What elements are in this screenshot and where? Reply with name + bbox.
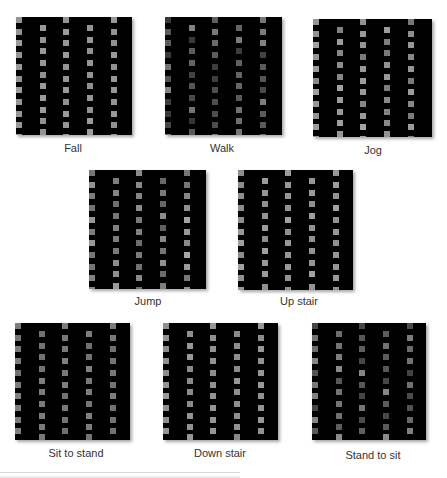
heatmap-cell xyxy=(337,85,343,91)
panel-label-up-stair: Up stair xyxy=(234,295,364,307)
heatmap-cell xyxy=(184,182,190,188)
heatmap-cell xyxy=(262,260,268,266)
heatmap-cell xyxy=(309,178,315,184)
heatmap-cell xyxy=(408,78,414,84)
heatmap-cell xyxy=(136,229,142,235)
heatmap-cell xyxy=(62,428,68,434)
heatmap-cell xyxy=(111,76,117,82)
heatmap-cell xyxy=(16,99,22,105)
heatmap-cell xyxy=(87,118,93,124)
heatmap-cell xyxy=(165,64,171,70)
heatmap-cell xyxy=(189,25,195,31)
heatmap-cell xyxy=(187,424,193,430)
heatmap-cell xyxy=(184,217,190,223)
heatmap-cell xyxy=(89,205,95,211)
heatmap-cell xyxy=(136,264,142,270)
heatmap-cell xyxy=(258,393,264,399)
heatmap-cell xyxy=(87,95,93,101)
heatmap-cell xyxy=(39,424,45,430)
heatmap-cell xyxy=(312,335,318,341)
heatmap-cell xyxy=(262,178,268,184)
heatmap-cell xyxy=(313,124,319,130)
heatmap-cell xyxy=(62,417,68,423)
heatmap-cell xyxy=(360,31,366,37)
heatmap-cell xyxy=(160,248,166,254)
heatmap-cell xyxy=(309,260,315,266)
heatmap-cell xyxy=(210,346,216,352)
heatmap-cell xyxy=(238,170,244,176)
heatmap-cell xyxy=(40,95,46,101)
heatmap-cell xyxy=(187,413,193,419)
heatmap-cell xyxy=(89,182,95,188)
heatmap-cell xyxy=(63,122,69,128)
heatmap-cell xyxy=(160,236,166,242)
heatmap-cell xyxy=(212,29,218,35)
heatmap-cell xyxy=(408,19,414,25)
heatmap-cell xyxy=(40,107,46,113)
heatmap-cell xyxy=(136,182,142,188)
heatmap-cell xyxy=(260,111,266,117)
heatmap-cell xyxy=(309,284,315,290)
heatmap-cell xyxy=(163,370,169,376)
heatmap-cell xyxy=(210,428,216,434)
heatmap-cell xyxy=(285,193,291,199)
heatmap-panel-sit-to-stand xyxy=(15,323,130,440)
heatmap-cell xyxy=(360,136,366,137)
heatmap-cell xyxy=(165,76,171,82)
heatmap-cell xyxy=(189,107,195,113)
heatmap-cell xyxy=(89,170,95,176)
heatmap-cell xyxy=(87,83,93,89)
heatmap-cell xyxy=(309,190,315,196)
heatmap-cell xyxy=(238,275,244,281)
heatmap-cell xyxy=(313,66,319,72)
heatmap-cell xyxy=(40,118,46,124)
heatmap-cell xyxy=(187,366,193,372)
heatmap-cell xyxy=(258,370,264,376)
heatmap-cell xyxy=(336,389,342,395)
heatmap-cell xyxy=(333,193,339,199)
heatmap-cell xyxy=(238,287,244,290)
heatmap-cell xyxy=(87,60,93,66)
heatmap-cell xyxy=(110,370,116,376)
heatmap-cell xyxy=(234,413,240,419)
heatmap-panel-jog xyxy=(313,19,432,137)
heatmap-cell xyxy=(165,40,171,46)
heatmap-cell xyxy=(212,64,218,70)
heatmap-cell xyxy=(40,72,46,78)
heatmap-cell xyxy=(260,64,266,70)
heatmap-cell xyxy=(212,17,218,23)
heatmap-cell xyxy=(163,393,169,399)
heatmap-cell xyxy=(111,111,117,117)
heatmap-cell xyxy=(111,122,117,128)
heatmap-cell xyxy=(189,118,195,124)
heatmap-cell xyxy=(236,107,242,113)
heatmap-cell xyxy=(258,335,264,341)
heatmap-cell xyxy=(234,366,240,372)
heatmap-cell xyxy=(111,17,117,23)
heatmap-cell xyxy=(360,89,366,95)
heatmap-cell xyxy=(333,170,339,176)
heatmap-cell xyxy=(312,370,318,376)
heatmap-cell xyxy=(312,323,318,329)
heatmap-cell xyxy=(313,54,319,60)
heatmap-cell xyxy=(383,343,389,349)
heatmap-cell xyxy=(163,428,169,434)
heatmap-cell xyxy=(309,201,315,207)
heatmap-cell xyxy=(110,335,116,341)
heatmap-cell xyxy=(110,393,116,399)
heatmap-cell xyxy=(89,252,95,258)
heatmap-cell xyxy=(359,405,365,411)
heatmap-cell xyxy=(210,323,216,329)
heatmap-cell xyxy=(62,358,68,364)
heatmap-cell xyxy=(63,87,69,93)
heatmap-cell xyxy=(384,74,390,80)
heatmap-cell xyxy=(136,275,142,281)
heatmap-cell xyxy=(337,109,343,115)
heatmap-cell xyxy=(337,97,343,103)
heatmap-cell xyxy=(113,178,119,184)
heatmap-cell xyxy=(258,428,264,434)
heatmap-cell xyxy=(337,27,343,33)
heatmap-cell xyxy=(285,229,291,235)
heatmap-cell xyxy=(163,405,169,411)
heatmap-cell xyxy=(63,99,69,105)
